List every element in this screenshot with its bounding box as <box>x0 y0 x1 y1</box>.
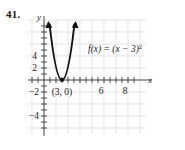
y-tick-label-neg4: −4 <box>29 111 39 121</box>
y-tick-label-4: 4 <box>32 51 37 61</box>
curve-arrow-right-icon <box>72 21 79 28</box>
y-tick-label-2: 2 <box>32 63 37 73</box>
parabola-curve <box>50 24 75 80</box>
function-label-exponent: 2 <box>139 43 142 50</box>
x-axis-label: x <box>147 75 152 85</box>
x-tick-label-8: 8 <box>123 86 128 96</box>
figure-panel: 41. <box>0 0 185 150</box>
vertex-point-marker <box>60 78 64 82</box>
y-tick-label-neg2: −2 <box>29 87 39 97</box>
curve-arrow-left-icon <box>46 21 53 28</box>
x-tick-label-6: 6 <box>99 86 104 96</box>
y-axis-label: y <box>36 12 41 22</box>
function-label: f(x) = (x − 3)2 <box>88 43 142 55</box>
vertex-coordinate-label: (3, 0) <box>52 87 73 98</box>
function-label-body: f(x) = (x − 3) <box>88 44 139 55</box>
parabola-graph: y x 4 2 −2 −4 6 8 (3, 0) f(x) = (x − 3)2 <box>0 0 185 150</box>
